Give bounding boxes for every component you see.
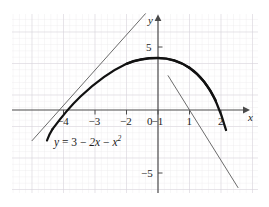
equation-quadratic-exponent: 2	[118, 134, 122, 143]
curve-equation-label: y = 3 − 2x − x2	[54, 137, 121, 149]
plot-canvas	[0, 0, 269, 207]
x-tick-label-2: 2	[218, 116, 224, 127]
equation-linear-term: 2x	[89, 136, 100, 148]
y-tick-label-5: 5	[146, 42, 152, 53]
y-tick-label--5: −5	[141, 168, 153, 179]
x-tick-label--3: −3	[89, 116, 101, 127]
x-tick-label-1: 1	[187, 116, 193, 127]
graph-figure: −4 −3 −2 −1 1 2 0 5 −5 y x y = 3 − 2x − …	[0, 0, 269, 207]
origin-label: 0	[147, 116, 153, 127]
equation-minus-2: −	[103, 136, 110, 148]
x-tick-label--1: −1	[152, 116, 164, 127]
x-axis-label: x	[248, 112, 253, 123]
y-axis-label: y	[148, 15, 153, 26]
x-tick-label--4: −4	[57, 116, 69, 127]
grid-layer	[0, 0, 269, 207]
x-tick-label--2: −2	[120, 116, 132, 127]
